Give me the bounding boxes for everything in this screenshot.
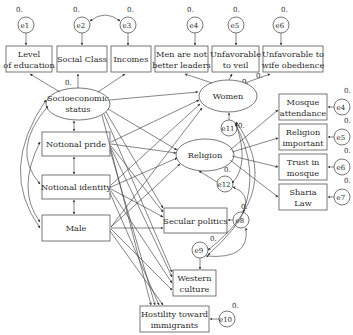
outcome-hostility-toward-immigrants: Hostility toward immigrants bbox=[140, 306, 209, 332]
svg-text:Hostility toward: Hostility toward bbox=[141, 309, 208, 319]
svg-text:Unfavorable: Unfavorable bbox=[210, 49, 261, 59]
svg-text:0.: 0. bbox=[281, 6, 288, 14]
svg-text:Notional identity: Notional identity bbox=[41, 182, 111, 192]
covariance-e2-e3 bbox=[90, 15, 120, 21]
svg-text:e6: e6 bbox=[337, 164, 346, 172]
svg-text:Male: Male bbox=[66, 223, 87, 233]
svg-text:Mosque: Mosque bbox=[287, 97, 320, 107]
indicator-mosque-attendance: Mosque attendance bbox=[279, 94, 327, 120]
variable-notional-identity: Notional identity bbox=[41, 175, 111, 199]
svg-text:0.: 0. bbox=[344, 177, 351, 185]
error-e12: 0. e12 bbox=[217, 166, 233, 192]
svg-text:Level: Level bbox=[18, 49, 41, 59]
svg-text:mosque: mosque bbox=[287, 168, 319, 178]
svg-text:Secular politics: Secular politics bbox=[163, 216, 227, 226]
svg-text:0.: 0. bbox=[73, 6, 80, 14]
indicator-unfavorable-to-veil: Unfavorable to veil bbox=[210, 46, 261, 72]
variable-male: Male bbox=[42, 215, 110, 241]
error-e7: 0. e7 bbox=[328, 177, 351, 205]
svg-text:e3: e3 bbox=[123, 22, 132, 30]
svg-text:Men are not: Men are not bbox=[156, 49, 208, 59]
svg-text:e4: e4 bbox=[337, 104, 346, 112]
svg-text:0.: 0. bbox=[16, 6, 23, 14]
svg-text:0.: 0. bbox=[344, 147, 351, 155]
variable-notional-pride: Notional pride bbox=[42, 132, 110, 156]
error-e6-right: 0. e6 bbox=[328, 147, 351, 175]
svg-text:wife obedience: wife obedience bbox=[262, 60, 325, 70]
error-e8: 0. e8 bbox=[228, 203, 249, 228]
svg-text:0.: 0. bbox=[344, 87, 351, 95]
latent-women: 0. 0. Women bbox=[199, 72, 263, 112]
svg-text:e4: e4 bbox=[190, 22, 199, 30]
indicator-incomes: Incomes bbox=[111, 46, 151, 72]
svg-text:important: important bbox=[282, 138, 324, 148]
error-e10: 0. e10 bbox=[210, 302, 239, 327]
svg-text:Women: Women bbox=[213, 91, 244, 101]
svg-text:Notional pride: Notional pride bbox=[46, 139, 106, 149]
indicator-religion-important: Religion important bbox=[279, 124, 327, 150]
svg-text:0.: 0. bbox=[187, 6, 194, 14]
svg-text:e5: e5 bbox=[231, 22, 240, 30]
svg-text:Incomes: Incomes bbox=[114, 54, 149, 64]
outcome-western-culture: Western culture bbox=[173, 270, 216, 296]
svg-text:Socioeconomic: Socioeconomic bbox=[47, 93, 110, 103]
svg-text:e6: e6 bbox=[276, 22, 285, 30]
svg-text:better leaders: better leaders bbox=[152, 60, 211, 70]
svg-text:0.: 0. bbox=[233, 6, 240, 14]
error-e2: 0. e2 bbox=[73, 6, 90, 45]
indicator-unfavorable-to-wife-obedience: Unfavorable to wife obedience bbox=[262, 46, 325, 72]
svg-text:Western: Western bbox=[177, 273, 212, 283]
svg-text:Unfavorable to: Unfavorable to bbox=[262, 49, 324, 59]
error-e4: 0. e4 bbox=[187, 6, 203, 45]
svg-text:e7: e7 bbox=[337, 194, 346, 202]
indicator-men-not-better-leaders: Men are not better leaders bbox=[152, 46, 211, 72]
error-e3: 0. e3 bbox=[120, 6, 136, 45]
svg-text:e11: e11 bbox=[222, 125, 235, 133]
indicator-sharia-law: Sharia Law bbox=[279, 184, 327, 210]
svg-text:Trust in: Trust in bbox=[287, 157, 320, 167]
svg-text:Social Class: Social Class bbox=[57, 54, 107, 64]
error-e5: 0. e5 bbox=[228, 6, 244, 45]
svg-text:Religion: Religion bbox=[286, 127, 321, 137]
svg-text:e10: e10 bbox=[219, 316, 232, 324]
svg-text:culture: culture bbox=[180, 284, 210, 294]
svg-text:attendance: attendance bbox=[280, 108, 327, 118]
sem-path-diagram: 0. e1 0. e2 0. e3 0. e4 0. e5 0. e6 Leve… bbox=[0, 0, 353, 335]
error-e6: 0. e6 bbox=[273, 6, 289, 45]
indicator-level-of-education: Level of education bbox=[3, 46, 55, 72]
svg-text:0.: 0. bbox=[232, 302, 239, 310]
svg-text:Religion: Religion bbox=[188, 150, 223, 160]
indicator-trust-in-mosque: Trust in mosque bbox=[279, 154, 327, 180]
error-e4-right: 0. e4 bbox=[328, 87, 351, 115]
svg-text:0.: 0. bbox=[65, 79, 72, 87]
svg-text:e2: e2 bbox=[77, 22, 86, 30]
error-e11: 0. e11 bbox=[221, 120, 245, 136]
svg-text:0.: 0. bbox=[344, 117, 351, 125]
svg-text:Law: Law bbox=[294, 198, 311, 208]
error-e1: 0. e1 bbox=[16, 6, 34, 45]
outcome-secular-politics: Secular politics bbox=[163, 208, 227, 233]
svg-text:immigrants: immigrants bbox=[151, 320, 199, 330]
svg-text:e12: e12 bbox=[218, 181, 231, 189]
svg-text:to veil: to veil bbox=[223, 60, 249, 70]
svg-text:e5: e5 bbox=[337, 134, 346, 142]
error-e9: 0. e9 bbox=[192, 235, 217, 269]
svg-text:0.: 0. bbox=[224, 166, 231, 174]
error-e5-right: 0. e5 bbox=[328, 117, 351, 145]
svg-text:Sharia: Sharia bbox=[289, 187, 316, 197]
svg-text:0.: 0. bbox=[127, 6, 134, 14]
svg-text:e1: e1 bbox=[21, 22, 30, 30]
indicator-social-class: Social Class bbox=[57, 46, 107, 72]
svg-text:e9: e9 bbox=[195, 247, 204, 255]
svg-text:status: status bbox=[65, 104, 90, 114]
svg-text:0.: 0. bbox=[210, 235, 217, 243]
svg-text:of education: of education bbox=[3, 60, 55, 70]
